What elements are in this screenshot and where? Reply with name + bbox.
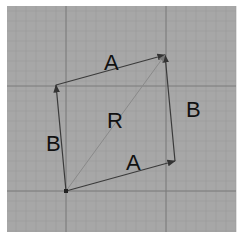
label-b-left: B — [46, 131, 61, 156]
origin-point — [64, 189, 68, 193]
label-b-right: B — [186, 97, 201, 122]
origin-dot — [64, 189, 68, 193]
label-a-bottom: A — [126, 150, 141, 175]
label-r: R — [107, 108, 123, 133]
label-a-top: A — [104, 50, 119, 75]
vector-addition-diagram: ABRBA — [0, 0, 242, 244]
